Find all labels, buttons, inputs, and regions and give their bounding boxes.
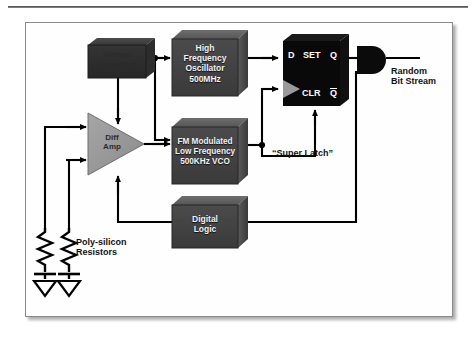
diff-amp-label: Diff Amp xyxy=(94,134,130,152)
resistor-2-symbol xyxy=(62,228,76,272)
wire-digital-logic-to-diffamp xyxy=(118,178,172,222)
latch-pin-set: SET xyxy=(303,50,321,60)
junction-vco-out xyxy=(259,142,265,148)
ground-triangle-1 xyxy=(34,281,56,296)
ground-triangle-2 xyxy=(58,281,80,296)
output-buffer-gate[interactable] xyxy=(357,46,386,74)
resistor-1-symbol xyxy=(38,228,52,272)
poly-silicon-resistors-label: Poly-silicon Resistors xyxy=(76,237,127,257)
figure-stage: Voltage Regulator High Frequency Oscilla… xyxy=(0,0,476,340)
latch-pin-qbar: Q xyxy=(330,88,337,98)
fm-modulated-vco-label: FM Modulated Low Frequency 500KHz VCO xyxy=(170,137,240,167)
wire-resistor2-to-diffamp xyxy=(69,160,84,230)
voltage-regulator-label: Voltage Regulator xyxy=(88,50,146,69)
super-latch-caption: “Super Latch” xyxy=(272,148,333,158)
wire-vreg-to-vco xyxy=(155,58,167,140)
wire-resistor1-to-diffamp xyxy=(45,127,84,230)
ground-symbols xyxy=(34,281,80,296)
latch-pin-d: D xyxy=(288,50,295,60)
random-bit-stream-label: Random Bit Stream xyxy=(391,66,436,86)
latch-pin-clr: CLR xyxy=(302,88,321,98)
latch-pin-q: Q xyxy=(330,50,337,60)
block-diagram-canvas xyxy=(0,0,476,340)
digital-logic-label: Digital Logic xyxy=(172,214,238,234)
high-frequency-oscillator-label: High Frequency Oscillator 500MHz xyxy=(172,43,238,84)
poly-silicon-resistors xyxy=(34,228,80,279)
wire-vco-to-latch-clock xyxy=(262,89,277,145)
